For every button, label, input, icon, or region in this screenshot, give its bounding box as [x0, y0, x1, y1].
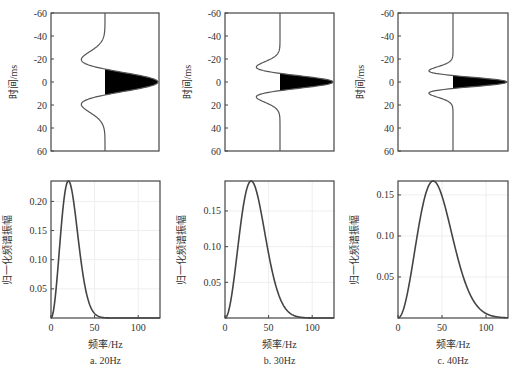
amplitude-axis-label: 归一化频谱振幅: [1, 215, 13, 285]
frequency-axis-label: 频率/Hz: [88, 338, 123, 350]
spectrum-panel-1: 0501000.050.100.150.20归一化频谱振幅频率/Hza. 20H…: [1, 181, 160, 366]
svg-text:40: 40: [211, 123, 221, 134]
frequency-axis-label: 频率/Hz: [262, 338, 297, 350]
panel-caption: b. 30Hz: [264, 355, 296, 366]
wavelet-positive-fill: [280, 73, 333, 90]
amplitude-axis-label: 归一化频谱振幅: [175, 215, 187, 285]
svg-text:-40: -40: [381, 31, 394, 42]
svg-text:0.15: 0.15: [204, 205, 222, 216]
svg-text:0.15: 0.15: [377, 189, 395, 200]
svg-text:60: 60: [384, 146, 394, 157]
svg-text:0: 0: [396, 322, 401, 333]
svg-text:100: 100: [131, 322, 146, 333]
wavelet-panel-3: -60-40-200204060时间/ms: [354, 8, 508, 157]
svg-text:-60: -60: [381, 8, 394, 19]
svg-text:60: 60: [37, 146, 47, 157]
svg-text:0: 0: [223, 322, 228, 333]
svg-text:100: 100: [305, 322, 320, 333]
amplitude-axis-label: 归一化频谱振幅: [348, 215, 360, 285]
svg-text:0: 0: [389, 77, 394, 88]
svg-text:0.15: 0.15: [30, 225, 48, 236]
svg-text:0: 0: [49, 322, 54, 333]
svg-text:-20: -20: [381, 54, 394, 65]
svg-text:-40: -40: [34, 31, 47, 42]
svg-text:0.10: 0.10: [377, 230, 395, 241]
svg-text:20: 20: [211, 100, 221, 111]
time-axis-label: 时间/ms: [181, 65, 193, 100]
svg-text:20: 20: [37, 100, 47, 111]
spectrum-curve: [398, 181, 508, 318]
wavelet-panel-1: -60-40-200204060时间/ms: [7, 8, 159, 157]
spectrum-curve: [225, 181, 334, 318]
svg-text:50: 50: [264, 322, 274, 333]
svg-text:40: 40: [37, 123, 47, 134]
svg-text:0.10: 0.10: [204, 241, 222, 252]
svg-text:0.10: 0.10: [30, 254, 48, 265]
wavelet-panel-2: -60-40-200204060时间/ms: [181, 8, 334, 157]
time-axis-label: 时间/ms: [7, 65, 19, 100]
wavelet-positive-fill: [105, 69, 158, 94]
svg-text:-40: -40: [208, 31, 221, 42]
svg-text:40: 40: [384, 123, 394, 134]
panel-caption: a. 20Hz: [90, 355, 122, 366]
svg-text:-60: -60: [208, 8, 221, 19]
svg-text:0.05: 0.05: [30, 283, 48, 294]
svg-text:20: 20: [384, 100, 394, 111]
svg-text:50: 50: [90, 322, 100, 333]
svg-text:0.05: 0.05: [204, 277, 222, 288]
time-axis-label: 时间/ms: [354, 65, 366, 100]
svg-text:-20: -20: [208, 54, 221, 65]
svg-text:100: 100: [479, 322, 494, 333]
svg-text:50: 50: [437, 322, 447, 333]
svg-text:-60: -60: [34, 8, 47, 19]
spectrum-panel-3: 0501000.050.100.15归一化频谱振幅频率/Hzc. 40Hz: [348, 181, 508, 366]
frequency-axis-label: 频率/Hz: [436, 338, 471, 350]
svg-text:0.20: 0.20: [30, 196, 48, 207]
svg-text:0: 0: [42, 77, 47, 88]
spectrum-panel-2: 0501000.050.100.15归一化频谱振幅频率/Hzb. 30Hz: [175, 181, 334, 366]
svg-text:0.05: 0.05: [377, 271, 395, 282]
svg-text:-20: -20: [34, 54, 47, 65]
svg-text:60: 60: [211, 146, 221, 157]
panel-caption: c. 40Hz: [437, 355, 469, 366]
svg-text:0: 0: [216, 77, 221, 88]
figure: -60-40-200204060时间/ms0501000.050.100.150…: [0, 0, 515, 373]
